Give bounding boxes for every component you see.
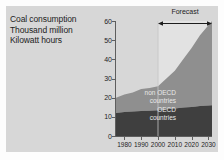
y-tick-label-10: 10 <box>98 113 112 120</box>
y-tick-label-60: 60 <box>98 18 112 25</box>
chart-title-line-1: Coal consumption <box>10 14 102 25</box>
y-tick-60 <box>112 21 115 22</box>
y-tick-10 <box>112 117 115 118</box>
y-tick-40 <box>112 59 115 60</box>
x-tick-2030 <box>208 137 209 140</box>
legend-non-oecd-line-1: non OECD <box>118 89 176 97</box>
y-tick-label-20: 20 <box>98 94 112 101</box>
y-tick-label-0: 0 <box>98 133 112 140</box>
legend-oecd-line-2: countries <box>118 114 176 122</box>
forecast-arrow <box>158 20 212 27</box>
x-tick-1980 <box>124 137 125 140</box>
x-tick-1990 <box>141 137 142 140</box>
x-tick-2000 <box>158 137 159 140</box>
y-axis-line <box>115 21 116 137</box>
y-tick-30 <box>112 79 115 80</box>
y-tick-label-30: 30 <box>98 75 112 82</box>
y-tick-50 <box>112 40 115 41</box>
y-tick-20 <box>112 98 115 99</box>
legend-non-oecd: non OECD countries <box>118 89 176 104</box>
legend-oecd: OECD countries <box>118 106 176 121</box>
y-tick-label-40: 40 <box>98 56 112 63</box>
chart-figure: Coal consumption Thousand million Kilowa… <box>0 0 224 160</box>
x-tick-2010 <box>175 137 176 140</box>
y-tick-label-50: 50 <box>98 37 112 44</box>
y-axis-labels: 60 50 40 30 20 10 0 <box>94 0 112 160</box>
y-tick-0 <box>112 136 115 137</box>
chart-title-block: Coal consumption Thousand million Kilowa… <box>10 14 102 46</box>
forecast-label: Forecast <box>158 8 212 15</box>
legend-oecd-line-1: OECD <box>118 106 176 114</box>
legend-non-oecd-line-2: countries <box>118 97 176 105</box>
x-axis-line <box>115 136 212 137</box>
chart-title-line-3: Kilowatt hours <box>10 35 102 46</box>
x-tick-2020 <box>192 137 193 140</box>
chart-title-line-2: Thousand million <box>10 25 102 36</box>
x-tick-label-2030: 2030 <box>198 141 218 148</box>
